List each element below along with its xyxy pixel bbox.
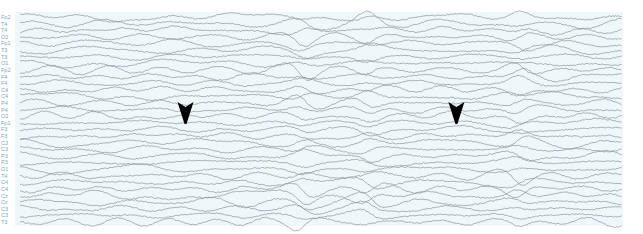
eeg-trace-o1 [20, 59, 622, 68]
eeg-traces [0, 0, 643, 234]
eeg-trace-p3 [20, 149, 622, 163]
eeg-trace-o1 [20, 164, 622, 175]
eeg-trace-f3 [20, 125, 622, 136]
eeg-trace-t4 [20, 26, 622, 36]
eeg-trace-fp1 [20, 39, 622, 51]
eeg-trace-f3 [20, 130, 622, 140]
eeg-trace-cz [20, 190, 622, 205]
eeg-trace-c3 [20, 145, 622, 154]
eeg-trace-p4 [20, 95, 622, 110]
eeg-trace-t4 [20, 11, 622, 30]
eeg-trace-t4 [20, 169, 622, 185]
eeg-trace-o2 [20, 32, 622, 46]
eeg-trace-f4 [20, 75, 622, 86]
eeg-trace-t3 [20, 217, 622, 231]
eeg-trace-p3 [20, 156, 622, 167]
eeg-trace-c3 [20, 136, 622, 150]
eeg-trace-f4 [20, 69, 622, 83]
